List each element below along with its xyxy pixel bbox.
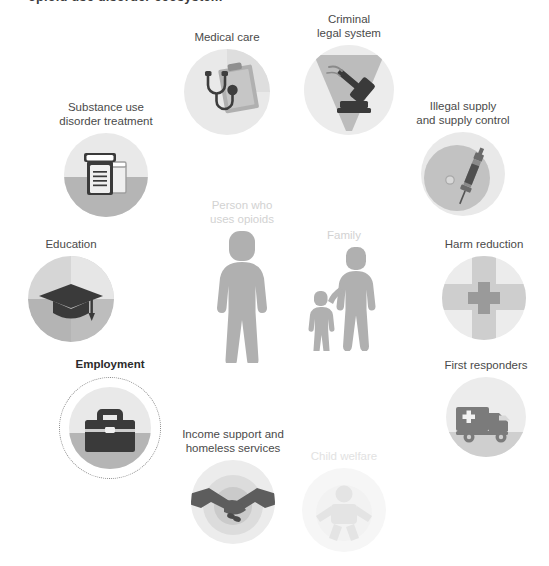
node-illegal-supply-and-supply-control[interactable]: Illegal supply and supply control: [398, 99, 528, 216]
node-label-first-responders: First responders: [444, 358, 527, 372]
node-label-criminal-legal-system: Criminal legal system: [317, 12, 381, 40]
node-label-harm-reduction: Harm reduction: [445, 237, 524, 251]
stethoscope-clipboard-icon: [184, 49, 270, 135]
disc-wrap-employment: [58, 376, 162, 480]
node-harm-reduction[interactable]: Harm reduction: [432, 237, 536, 340]
graduation-cap-icon: [28, 256, 114, 342]
disc-wrap-criminal-legal-system: [304, 45, 394, 135]
node-label-child-welfare: Child welfare: [311, 449, 377, 463]
handshake-icon: [191, 460, 275, 544]
node-child-welfare[interactable]: Child welfare: [292, 449, 396, 552]
disc-wrap-first-responders: [446, 377, 526, 457]
center-label-person-who-uses-opioids: Person who uses opioids: [210, 198, 274, 226]
syringe-icon: [421, 132, 505, 216]
node-criminal-legal-system[interactable]: Criminal legal system: [290, 12, 408, 135]
disc-wrap-illegal-supply-and-supply-control: [421, 132, 505, 216]
node-first-responders[interactable]: First responders: [432, 358, 540, 457]
disc-wrap-child-welfare: [302, 468, 386, 552]
node-label-illegal-supply-and-supply-control: Illegal supply and supply control: [416, 99, 509, 127]
page-title-fragment: opioid use disorder ecosystem: [28, 0, 222, 4]
center-label-family: Family: [327, 228, 361, 242]
adult-person-icon: [199, 231, 285, 363]
node-label-substance-use-disorder-treatment: Substance use disorder treatment: [59, 100, 152, 128]
node-label-income-support-and-homeless-services: Income support and homeless services: [182, 427, 284, 455]
briefcase-icon: [69, 387, 151, 469]
disc-wrap-harm-reduction: [442, 256, 526, 340]
disc-wrap-income-support-and-homeless-services: [191, 460, 275, 544]
node-substance-use-disorder-treatment[interactable]: Substance use disorder treatment: [42, 100, 170, 217]
node-income-support-and-homeless-services[interactable]: Income support and homeless services: [163, 427, 303, 544]
adult-and-child-icon: [300, 247, 388, 351]
node-medical-care[interactable]: Medical care: [172, 30, 282, 135]
baby-icon: [302, 468, 386, 552]
ambulance-icon: [446, 377, 526, 457]
node-label-medical-care: Medical care: [194, 30, 259, 44]
center-family: Family: [298, 228, 390, 351]
disc-wrap-medical-care: [184, 49, 270, 135]
disc-wrap-substance-use-disorder-treatment: [64, 133, 148, 217]
disc-wrap-education: [28, 256, 114, 342]
opioid-ecosystem-diagram: opioid use disorder ecosystem Medical ca…: [0, 0, 549, 566]
node-employment[interactable]: Employment: [52, 357, 168, 480]
node-label-education: Education: [45, 237, 96, 251]
pill-bottle-icon: [64, 133, 148, 217]
node-label-employment: Employment: [75, 357, 144, 371]
center-person-who-uses-opioids: Person who uses opioids: [186, 198, 298, 363]
medical-cross-icon: [442, 256, 526, 340]
gavel-icon: [304, 45, 394, 135]
node-education[interactable]: Education: [18, 237, 124, 342]
